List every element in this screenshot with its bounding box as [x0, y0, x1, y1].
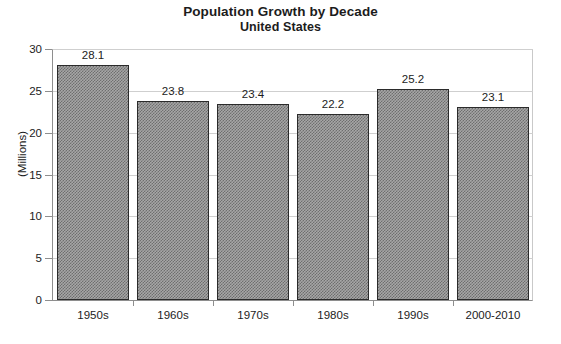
page-title: Population Growth by Decade: [0, 4, 561, 20]
gridline: [53, 49, 533, 50]
bar: [57, 65, 129, 300]
y-axis-title: (Millions): [16, 114, 28, 194]
y-axis-label: 25: [16, 85, 42, 97]
bar: [217, 104, 289, 300]
x-axis-label: 1970s: [213, 309, 293, 322]
x-axis: 1950s1960s1970s1980s1990s2000-2010: [53, 300, 533, 336]
y-axis-label: 10: [16, 210, 42, 222]
y-axis-tick: [45, 175, 52, 176]
x-axis-label: 1990s: [373, 309, 453, 322]
x-axis-tick: [373, 300, 374, 306]
y-axis-tick: [45, 300, 52, 301]
y-axis-label: 30: [16, 43, 42, 55]
x-axis-label: 1960s: [133, 309, 213, 322]
bar: [457, 107, 529, 300]
bar-value-label: 23.1: [463, 91, 523, 104]
x-axis-tick: [213, 300, 214, 306]
plot-area: 28.123.823.422.225.223.1: [53, 49, 533, 300]
y-axis-tick: [45, 49, 52, 50]
y-axis-label: 0: [16, 294, 42, 306]
y-axis-tick: [45, 133, 52, 134]
x-axis-tick: [453, 300, 454, 306]
y-axis-label: 5: [16, 252, 42, 264]
y-axis-tick: [45, 91, 52, 92]
bar-value-label: 22.2: [303, 98, 363, 111]
x-axis-label: 2000-2010: [453, 309, 533, 322]
y-axis-tick: [45, 216, 52, 217]
bar: [377, 89, 449, 300]
bar-value-label: 28.1: [63, 49, 123, 62]
x-axis-tick: [133, 300, 134, 306]
y-axis-tick: [45, 258, 52, 259]
x-axis-label: 1950s: [53, 309, 133, 322]
chart-subtitle: United States: [0, 20, 561, 35]
x-axis-label: 1980s: [293, 309, 373, 322]
bar-chart: Population Growth by Decade United State…: [0, 0, 561, 344]
bar-value-label: 23.4: [223, 88, 283, 101]
chart-title-block: Population Growth by Decade United State…: [0, 4, 561, 35]
bar-value-label: 23.8: [143, 85, 203, 98]
bar: [137, 101, 209, 300]
bar: [297, 114, 369, 300]
x-axis-tick: [293, 300, 294, 306]
bar-value-label: 25.2: [383, 73, 443, 86]
